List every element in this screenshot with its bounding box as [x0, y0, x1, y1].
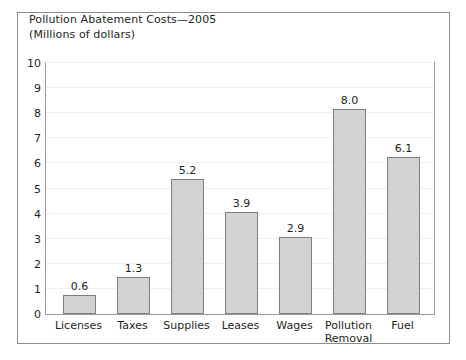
- gridline: [46, 188, 434, 189]
- x-axis-tick-label: Leases: [222, 319, 260, 332]
- bar-value-label: 6.1: [395, 142, 413, 155]
- bar: [333, 109, 366, 314]
- bar: [387, 157, 420, 314]
- bar: [171, 179, 204, 314]
- bar: [225, 212, 258, 314]
- gridline: [46, 162, 434, 163]
- chart-title-line2: (Millions of dollars): [29, 27, 216, 42]
- y-axis-tick-label: 4: [15, 207, 41, 220]
- chart-title: Pollution Abatement Costs—2005 (Millions…: [29, 12, 216, 42]
- gridline: [46, 137, 434, 138]
- chart-title-line1: Pollution Abatement Costs—2005: [29, 13, 216, 26]
- y-axis-tick-label: 8: [15, 107, 41, 120]
- x-axis-tick-label: Supplies: [163, 319, 210, 332]
- bar-value-label: 5.2: [179, 164, 197, 177]
- bar-value-label: 3.9: [233, 197, 251, 210]
- y-axis-tick-label: 3: [15, 232, 41, 245]
- x-axis-tick-label: PollutionRemoval: [325, 319, 373, 345]
- y-axis-tick-label: 10: [15, 57, 41, 70]
- x-axis-tick-label: Taxes: [117, 319, 147, 332]
- y-axis-tick-label: 9: [15, 82, 41, 95]
- bar: [63, 295, 96, 314]
- y-axis-tick-label: 6: [15, 157, 41, 170]
- y-axis-tick-label: 5: [15, 182, 41, 195]
- x-axis-tick-label: Wages: [276, 319, 312, 332]
- bar-value-label: 2.9: [287, 222, 305, 235]
- x-axis-tick-label: Fuel: [391, 319, 414, 332]
- gridline: [46, 87, 434, 88]
- y-axis-tick-label: 0: [15, 308, 41, 321]
- bar-value-label: 1.3: [125, 262, 143, 275]
- plot-inner: 0.61.35.23.92.98.06.1: [46, 63, 434, 314]
- gridline: [46, 112, 434, 113]
- bar-value-label: 8.0: [341, 94, 359, 107]
- plot-area: 0.61.35.23.92.98.06.1: [45, 62, 435, 315]
- y-axis-tick-label: 7: [15, 132, 41, 145]
- y-axis-tick-labels: 012345678910: [11, 62, 41, 315]
- x-axis-tick-label: Licenses: [55, 319, 102, 332]
- bar: [117, 277, 150, 314]
- y-axis-tick-label: 1: [15, 282, 41, 295]
- bar: [279, 237, 312, 314]
- gridline: [46, 62, 434, 63]
- x-axis-tick-label-line2: Removal: [325, 332, 373, 345]
- bar-value-label: 0.6: [71, 280, 89, 293]
- y-axis-tick-label: 2: [15, 257, 41, 270]
